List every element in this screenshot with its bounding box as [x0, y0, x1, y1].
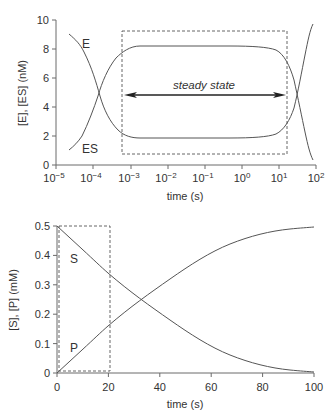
- bottom-x-ticks: 0 20 40 60 80 100: [54, 373, 323, 393]
- top-y-tick-label: 8: [43, 43, 49, 55]
- bottom-x-tick-label: 80: [256, 381, 268, 393]
- top-x-tick-label: 102: [308, 171, 325, 184]
- steady-state-arrow: [124, 92, 286, 98]
- steady-state-label: steady state: [173, 79, 235, 91]
- initial-phase-box: [59, 226, 110, 371]
- top-y-tick-label: 4: [43, 101, 49, 113]
- steady-state-box: [122, 31, 287, 154]
- bottom-x-tick-label: 20: [102, 381, 114, 393]
- bottom-y-tick-label: 0.5: [35, 220, 50, 232]
- top-y-axis-label: [E], [ES] (nM): [16, 60, 28, 126]
- bottom-chart: 0 0.1 0.2 0.3 0.4 0.5 0 20 40 60 80 100 …: [7, 220, 323, 410]
- top-x-tick-label: 10−2: [155, 171, 177, 184]
- top-y-tick-label: 10: [37, 14, 49, 26]
- bottom-x-axis-label: time (s): [167, 398, 204, 410]
- bottom-y-tick-label: 0.4: [35, 249, 50, 261]
- bottom-x-tick-label: 0: [54, 381, 60, 393]
- top-y-tick-label: 6: [43, 72, 49, 84]
- series-label-es: ES: [82, 142, 98, 156]
- bottom-y-tick-label: 0.3: [35, 279, 50, 291]
- bottom-x-tick-label: 60: [205, 381, 217, 393]
- top-x-tick-label: 10−3: [118, 171, 140, 184]
- top-y-tick-label: 2: [43, 130, 49, 142]
- bottom-y-axis-label: [S], [P] (mM): [7, 269, 19, 331]
- top-chart: 0 2 4 6 8 10 10−5 10−4 10−3 10−2 10−1 10…: [16, 14, 325, 202]
- bottom-y-tick-label: 0: [44, 367, 50, 379]
- series-s-line: [57, 226, 314, 372]
- figure: 0 2 4 6 8 10 10−5 10−4 10−3 10−2 10−1 10…: [0, 0, 334, 417]
- bottom-x-tick-label: 100: [305, 381, 323, 393]
- top-x-tick-label: 100: [234, 171, 251, 184]
- series-label-e: E: [82, 37, 90, 51]
- series-p-line: [57, 227, 314, 373]
- bottom-y-tick-label: 0.1: [35, 338, 50, 350]
- top-x-tick-label: 10−1: [192, 171, 214, 184]
- top-x-tick-label: 10−5: [43, 171, 65, 184]
- bottom-y-tick-label: 0.2: [35, 308, 50, 320]
- top-x-tick-label: 10−4: [80, 171, 102, 184]
- series-label-s: S: [70, 252, 78, 266]
- top-y-tick-label: 0: [43, 159, 49, 171]
- top-x-ticks: 10−5 10−4 10−3 10−2 10−1 100 101 102: [43, 165, 325, 184]
- series-label-p: P: [70, 341, 78, 355]
- top-y-ticks: 0 2 4 6 8 10: [37, 14, 56, 171]
- bottom-y-ticks: 0 0.1 0.2 0.3 0.4 0.5: [35, 220, 57, 379]
- bottom-x-tick-label: 40: [154, 381, 166, 393]
- series-es-line: [69, 46, 313, 160]
- top-x-axis-label: time (s): [167, 190, 204, 202]
- top-x-tick-label: 101: [271, 171, 288, 184]
